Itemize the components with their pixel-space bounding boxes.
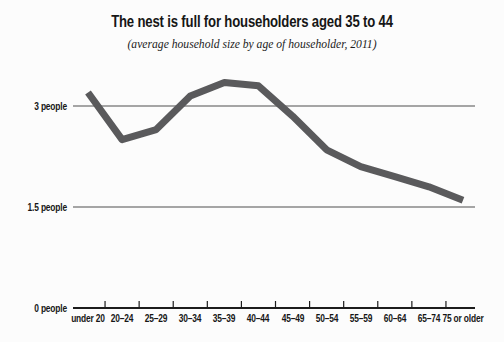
x-axis-label: 75 or older (439, 313, 487, 323)
data-line (88, 82, 463, 200)
household-size-line-chart (0, 0, 504, 342)
y-axis-label: 3 people (13, 101, 67, 111)
y-axis-label: 0 people (13, 303, 67, 313)
chart-page: The nest is full for householders aged 3… (0, 0, 504, 342)
plot-area: 3 people1.5 people0 people under 2020–24… (0, 0, 504, 342)
y-axis-label: 1.5 people (13, 202, 67, 212)
